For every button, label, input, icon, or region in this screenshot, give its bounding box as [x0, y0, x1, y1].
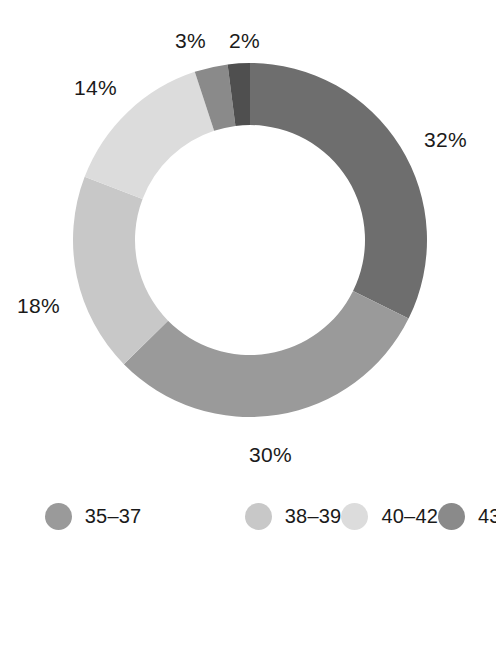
legend-item[interactable]: Under 35 — [0, 496, 45, 536]
slice-percentage-label: 14% — [74, 76, 117, 100]
slice-percentage-label: 30% — [249, 443, 292, 467]
slice-percentage-label: 3% — [175, 29, 206, 53]
chart-legend: Under 3535–3738–3940–4243–44Over 44 — [0, 496, 496, 648]
legend-swatch-circle-icon — [245, 503, 272, 530]
donut-chart: 32%30%18%14%3%2% — [0, 0, 496, 490]
donut-slice-group — [73, 63, 427, 417]
legend-item[interactable]: 35–37 — [45, 496, 245, 536]
donut-slice[interactable] — [250, 63, 427, 319]
legend-swatch-circle-icon — [45, 503, 72, 530]
legend-swatch-circle-icon — [438, 503, 465, 530]
legend-item[interactable]: 40–42 — [341, 496, 438, 536]
legend-item[interactable]: 38–39 — [245, 496, 342, 536]
legend-item-label: 40–42 — [381, 505, 438, 528]
legend-swatch-circle-icon — [341, 503, 368, 530]
legend-item-label: 38–39 — [285, 505, 342, 528]
slice-percentage-label: 18% — [17, 294, 60, 318]
legend-item-label: 35–37 — [85, 505, 142, 528]
donut-slice[interactable] — [124, 291, 409, 417]
slice-percentage-label: 2% — [229, 29, 260, 53]
legend-item[interactable]: 43–44 — [438, 496, 496, 536]
donut-chart-svg — [0, 0, 496, 490]
legend-item-label: 43–44 — [478, 505, 496, 528]
slice-percentage-label: 32% — [424, 128, 467, 152]
